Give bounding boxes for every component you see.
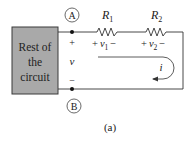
v2-label: +v2− (141, 38, 165, 52)
current-arrowhead (152, 77, 158, 82)
current-label: i (159, 61, 162, 73)
circuit-diagram: Rest of the circuit A B + v − R1 R2 +v1−… (0, 0, 195, 144)
r1-label: R1 (101, 8, 113, 24)
node-b-label: B (71, 101, 78, 112)
node-a-label: A (68, 10, 76, 21)
block-label-line-3: circuit (20, 71, 50, 83)
terminal-voltage-symbol: v (70, 55, 75, 67)
r2-label: R2 (150, 8, 162, 24)
current-loop-arrow (98, 57, 174, 79)
block-label-line-2: the (28, 56, 42, 68)
resistor-r2 (146, 28, 166, 36)
terminal-voltage-plus: + (69, 37, 75, 48)
figure-caption: (a) (104, 121, 117, 134)
terminal-voltage-minus: − (69, 75, 75, 86)
resistor-r1 (97, 28, 117, 36)
block-label-line-1: Rest of (19, 41, 52, 53)
v1-label: +v1− (92, 38, 116, 52)
node-a-dot (70, 30, 74, 34)
node-b-dot (70, 87, 74, 91)
